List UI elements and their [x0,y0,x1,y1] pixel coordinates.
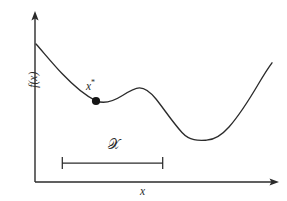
feasible-set-label: 𝒳 [108,137,120,151]
x-axis [35,178,279,185]
figure-svg [0,0,287,201]
x-axis-label: x [140,186,145,198]
optimum-point-marker [92,97,100,105]
feasible-set-interval [62,157,163,169]
optimum-point-label: x* [86,79,95,92]
figure-canvas: f(x) x x* 𝒳 [0,0,287,201]
y-axis-label: f(x) [28,58,40,102]
function-curve-group [36,44,272,140]
function-curve [36,44,272,140]
optimum-label-superscript: * [91,78,95,87]
